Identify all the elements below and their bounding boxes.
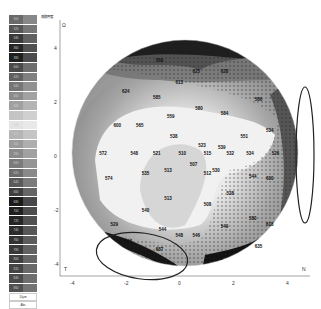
thickness-value: 687 bbox=[156, 247, 164, 252]
nasal-ellipse bbox=[296, 87, 314, 223]
temporal-label: T bbox=[64, 266, 67, 272]
thickness-value: 565 bbox=[136, 122, 144, 127]
x-tick: 2 bbox=[232, 280, 235, 286]
thickness-value: 569 bbox=[156, 57, 164, 62]
thickness-value: 580 bbox=[249, 215, 257, 220]
thickness-value: 584 bbox=[221, 111, 229, 116]
y-tick: 4 bbox=[54, 45, 57, 51]
thickness-value: 613 bbox=[176, 80, 184, 85]
thickness-value: 513 bbox=[164, 167, 172, 172]
thickness-value: 600 bbox=[113, 122, 121, 127]
thickness-value: 551 bbox=[241, 134, 249, 139]
thickness-value: 540 bbox=[142, 207, 150, 212]
x-tick: -2 bbox=[124, 280, 128, 286]
thickness-value: 549 bbox=[221, 224, 229, 229]
thickness-value: 572 bbox=[99, 151, 107, 156]
thickness-value: 585 bbox=[153, 94, 161, 99]
thickness-value: 606 bbox=[125, 238, 133, 243]
y-tick: -4 bbox=[54, 261, 58, 267]
thickness-value: 530 bbox=[212, 167, 220, 172]
thickness-value: 521 bbox=[153, 151, 161, 156]
thickness-value: 600 bbox=[266, 176, 274, 181]
thickness-value: 539 bbox=[218, 145, 226, 150]
thickness-value: 513 bbox=[164, 196, 172, 201]
thickness-value: 580 bbox=[195, 105, 203, 110]
thickness-value: 534 bbox=[266, 128, 274, 133]
y-tick: -2 bbox=[54, 207, 58, 213]
thickness-value: 544 bbox=[249, 173, 257, 178]
thickness-value: 586 bbox=[255, 97, 263, 102]
thickness-value: 507 bbox=[190, 162, 198, 167]
y-tick: 0 bbox=[54, 153, 57, 159]
thickness-value: 591 bbox=[215, 255, 223, 260]
thickness-value: 510 bbox=[178, 151, 186, 156]
corner-label: Ω bbox=[62, 22, 66, 28]
thickness-value: 538 bbox=[170, 134, 178, 139]
thickness-value: 559 bbox=[167, 114, 175, 119]
legend-mode: Abs bbox=[9, 301, 37, 309]
thickness-value: 544 bbox=[159, 227, 167, 232]
thickness-value: 523 bbox=[198, 142, 206, 147]
thickness-value: 635 bbox=[255, 244, 263, 249]
thickness-value: 512 bbox=[204, 170, 212, 175]
thickness-value: 618 bbox=[266, 221, 274, 226]
thickness-value: 574 bbox=[105, 176, 113, 181]
thickness-value: 625 bbox=[193, 69, 201, 74]
thickness-value: 529 bbox=[111, 221, 119, 226]
x-tick: 4 bbox=[286, 280, 289, 286]
thickness-value: 624 bbox=[122, 88, 130, 93]
thickness-value: 532 bbox=[226, 151, 234, 156]
thickness-value: 508 bbox=[204, 201, 212, 206]
thickness-value: 535 bbox=[142, 170, 150, 175]
thickness-value: 546 bbox=[193, 232, 201, 237]
thickness-value: 515 bbox=[204, 151, 212, 156]
thickness-value: 534 bbox=[246, 151, 254, 156]
thickness-value: 548 bbox=[130, 151, 138, 156]
y-tick: 2 bbox=[54, 99, 57, 105]
nasal-label: N bbox=[302, 266, 306, 272]
x-tick: -4 bbox=[70, 280, 74, 286]
thickness-value: 628 bbox=[221, 69, 229, 74]
thickness-value: 526 bbox=[272, 151, 280, 156]
x-tick: 0 bbox=[178, 280, 181, 286]
thickness-value: 548 bbox=[176, 232, 184, 237]
thickness-value: 538 bbox=[226, 190, 234, 195]
